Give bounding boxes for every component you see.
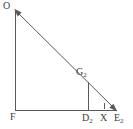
segment-hypotenuse-OE2 [15, 10, 116, 110]
vertex-label-f: F [10, 112, 16, 122]
geometry-diagram: O F G2 D2 X E2 [0, 0, 133, 129]
vertex-label-d2: D2 [82, 113, 93, 123]
vertex-label-e2-subscript: 2 [120, 117, 124, 125]
vertex-label-d2-subscript: 2 [89, 117, 93, 125]
diagram-canvas [0, 0, 133, 129]
vertex-label-g2: G2 [76, 67, 87, 77]
vertex-label-x: X [100, 113, 107, 123]
vertex-label-e2: E2 [114, 113, 124, 123]
vertex-label-o: O [3, 1, 10, 11]
vertex-label-g2-subscript: 2 [83, 71, 87, 79]
